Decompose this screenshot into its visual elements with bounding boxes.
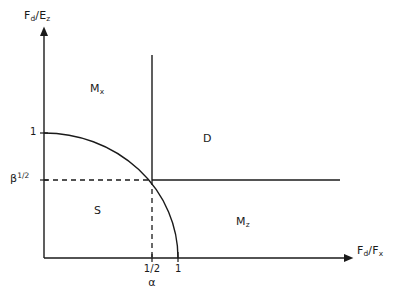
region-label-mz: Mz — [236, 216, 250, 229]
y-tick-label-1: 1 — [30, 127, 37, 137]
x-tick-label-half: 1/2 — [137, 264, 167, 274]
region-label-s: S — [94, 205, 101, 218]
region-d-base: D — [203, 132, 212, 145]
x-axis-title: Fd/Fx — [357, 245, 383, 258]
x-axis-title-denominator: /F — [368, 244, 378, 257]
y-tick-label-beta-half: β1/2 — [10, 172, 29, 184]
x-axis-title-denominator-sub: x — [379, 249, 383, 258]
region-s-base: S — [94, 204, 101, 217]
plot-canvas — [0, 0, 403, 293]
region-label-d: D — [203, 133, 212, 146]
y-axis-title-denominator: /E — [35, 9, 46, 22]
y-axis-title: Fd/Ez — [24, 10, 50, 23]
region-mz-sub: z — [246, 220, 250, 229]
beta-exponent: 1/2 — [17, 171, 29, 180]
region-label-mx: Mx — [90, 83, 104, 96]
x-tick-label-1: 1 — [175, 264, 182, 274]
y-axis-title-denominator-sub: z — [46, 14, 50, 23]
quarter-ellipse-boundary-curve — [44, 133, 178, 258]
region-mx-sub: x — [100, 87, 104, 96]
region-mz-base: M — [236, 215, 246, 228]
phase-diagram-figure: Fd/Ez Fd/Fx 1 β1/2 1/2 α 1 Mx D S Mz — [0, 0, 403, 293]
x-axis-alpha-label: α — [137, 277, 167, 288]
region-mx-base: M — [90, 82, 100, 95]
